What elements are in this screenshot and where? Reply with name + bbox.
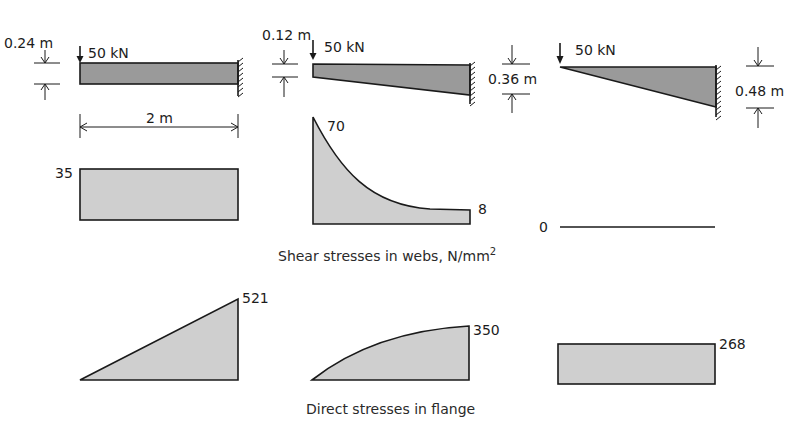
beam-1-load-label: 50 kN xyxy=(88,45,129,61)
cantilever-stress-diagram: 50 kN 0.24 m 2 m xyxy=(0,0,795,440)
beam-2-tip-depth-label: 0.12 m xyxy=(262,27,311,43)
shear-2-tip-value: 8 xyxy=(478,201,487,217)
beam-3-body xyxy=(560,67,716,107)
beam-3-group: 50 kN 0.48 m xyxy=(557,42,785,128)
direct-diagram-3 xyxy=(558,344,715,384)
direct-caption: Direct stresses in flange xyxy=(306,401,475,417)
fixed-support-icon xyxy=(716,65,721,120)
direct-stress-row: 521 350 268 Direct stresses in flange xyxy=(80,290,746,417)
beam-2-root-depth-label: 0.36 m xyxy=(488,71,537,87)
fixed-support-icon xyxy=(238,58,243,97)
depth-dimension-icon xyxy=(34,50,60,100)
direct-2-value: 350 xyxy=(473,322,500,338)
load-arrow-icon xyxy=(310,40,317,60)
shear-caption: Shear stresses in webs, N/mm2 xyxy=(278,246,496,264)
beam-2-group: 50 kN 0.12 m 0.36 m xyxy=(262,27,537,113)
shear-1-value: 35 xyxy=(55,165,73,181)
direct-diagram-2 xyxy=(312,326,469,380)
beam-2-load-label: 50 kN xyxy=(324,39,365,55)
beam-3-load-label: 50 kN xyxy=(575,42,616,58)
beam-3-root-depth-label: 0.48 m xyxy=(735,83,784,99)
beam-1-body xyxy=(80,63,238,84)
beam-1-depth-label: 0.24 m xyxy=(4,35,53,51)
direct-diagram-1 xyxy=(80,299,238,380)
beam-1-group: 50 kN 0.24 m 2 m xyxy=(4,35,243,138)
shear-2-root-value: 70 xyxy=(327,118,345,134)
fixed-support-icon xyxy=(470,62,475,106)
beam-2-body xyxy=(313,64,470,95)
shear-diagram-1 xyxy=(80,169,238,220)
direct-3-value: 268 xyxy=(719,336,746,352)
beam-1-span-label: 2 m xyxy=(146,110,173,126)
shear-stress-row: 35 70 8 0 Shear stresses in webs, N/mm2 xyxy=(55,117,715,264)
depth-dimension-icon xyxy=(272,50,298,97)
load-arrow-icon xyxy=(77,46,84,63)
load-arrow-icon xyxy=(557,43,564,64)
direct-1-value: 521 xyxy=(242,290,269,306)
shear-3-value: 0 xyxy=(539,219,548,235)
